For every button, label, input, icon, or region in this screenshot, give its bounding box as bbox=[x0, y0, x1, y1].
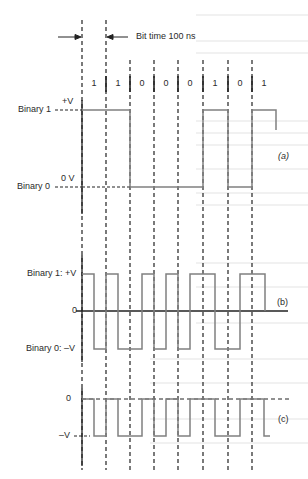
panel-c-low-label: –V bbox=[59, 430, 70, 440]
bit-value: 0 bbox=[154, 78, 178, 88]
panel-a-high-level: +V bbox=[62, 96, 73, 106]
bit-value: 1 bbox=[82, 78, 106, 88]
bit-value: 0 bbox=[228, 78, 252, 88]
panel-b-low-label: Binary 0: –V bbox=[26, 343, 75, 353]
panel-a-high-name: Binary 1 bbox=[18, 104, 51, 114]
panel-c-zero-label: 0 bbox=[66, 393, 71, 403]
bit-value: 0 bbox=[130, 78, 154, 88]
bit-value: 1 bbox=[252, 78, 276, 88]
panel-a-tag: (a) bbox=[278, 151, 289, 161]
waveform-diagram bbox=[0, 0, 308, 479]
bit-value: 1 bbox=[203, 78, 227, 88]
bit-time-arrows bbox=[58, 35, 128, 40]
bit-value: 1 bbox=[106, 78, 130, 88]
bit-time-label: Bit time 100 ns bbox=[136, 31, 196, 41]
negative-manchester-waveform bbox=[82, 399, 270, 436]
panel-a bbox=[55, 100, 276, 214]
bit-value: 0 bbox=[178, 78, 202, 88]
panel-b-zero-label: 0 bbox=[72, 305, 77, 315]
nrz-waveform bbox=[82, 110, 276, 187]
panel-b-high-label: Binary 1: +V bbox=[27, 268, 76, 278]
panel-b bbox=[76, 255, 288, 362]
panel-c-tag: (c) bbox=[278, 414, 289, 424]
panel-a-low-level: 0 V bbox=[61, 173, 75, 183]
panel-b-tag: (b) bbox=[277, 297, 288, 307]
line-coding-figure: Bit time 100 ns 1 1 0 0 0 1 0 1 +V Binar… bbox=[0, 0, 308, 479]
panel-a-low-name: Binary 0 bbox=[17, 181, 50, 191]
